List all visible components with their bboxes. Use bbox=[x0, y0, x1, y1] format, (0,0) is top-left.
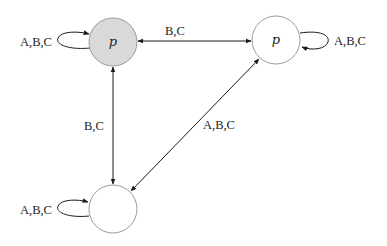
node-n3 bbox=[89, 185, 137, 233]
node-n2: p bbox=[252, 16, 300, 64]
self-loop-n2 bbox=[300, 32, 328, 49]
edge-n2-n3 bbox=[131, 59, 259, 191]
self-loop-label-n2: A,B,C bbox=[334, 34, 366, 48]
node-n1-label: p bbox=[109, 34, 118, 49]
self-loop-label-n1: A,B,C bbox=[20, 35, 52, 49]
node-n3-circle bbox=[89, 185, 137, 233]
self-loop-n3 bbox=[58, 200, 89, 216]
state-diagram: B,C B,C A,B,C A,B,C A,B,C A,B,C p p bbox=[0, 0, 387, 246]
self-loop-label-n3: A,B,C bbox=[20, 203, 52, 217]
edge-label-n1-n2: B,C bbox=[165, 24, 185, 38]
node-n1: p bbox=[89, 18, 137, 66]
self-loop-n1 bbox=[58, 32, 90, 48]
edge-label-n1-n3: B,C bbox=[84, 119, 104, 133]
node-n2-label: p bbox=[272, 32, 281, 47]
edge-label-n2-n3: A,B,C bbox=[203, 118, 235, 132]
